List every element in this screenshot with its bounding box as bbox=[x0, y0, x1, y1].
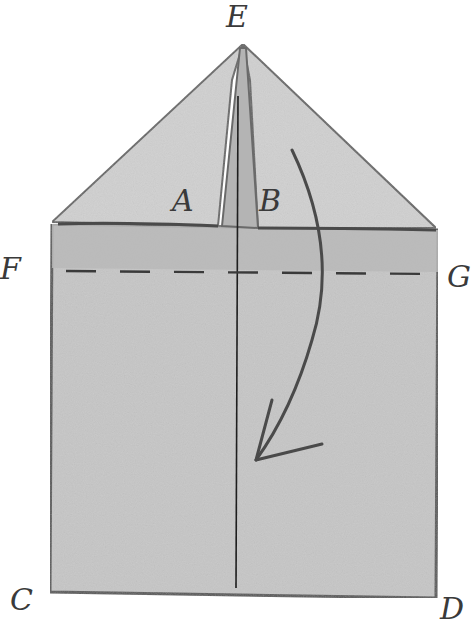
folding-diagram bbox=[0, 0, 474, 638]
point-label-e: E bbox=[226, 2, 248, 32]
point-label-g: G bbox=[447, 262, 471, 292]
point-label-d: D bbox=[440, 594, 464, 624]
folded-band bbox=[52, 224, 438, 272]
point-label-a: A bbox=[172, 186, 194, 216]
point-label-c: C bbox=[10, 585, 33, 615]
point-label-b: B bbox=[259, 186, 281, 216]
point-label-f: F bbox=[0, 254, 21, 284]
flap-a bbox=[52, 44, 243, 226]
paper-body bbox=[50, 224, 438, 598]
